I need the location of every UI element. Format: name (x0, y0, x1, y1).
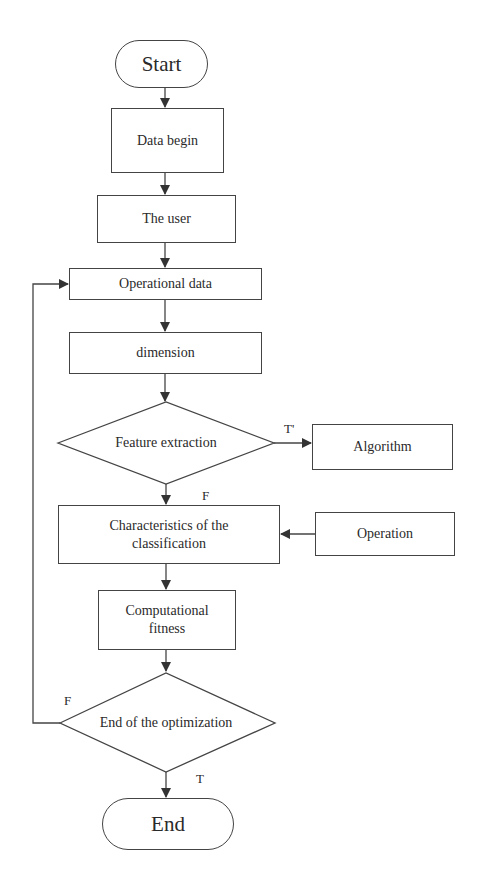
computational-fitness-box: Computational fitness (98, 590, 236, 650)
end-optimization-decision: End of the optimization (80, 710, 252, 736)
opt-false-label: F (64, 693, 71, 709)
operation-label: Operation (357, 525, 413, 543)
feature-true-label: T' (284, 421, 294, 437)
data-begin-box: Data begin (111, 108, 224, 173)
end-terminal: End (102, 798, 234, 850)
feature-false-label: F (202, 488, 209, 504)
characteristics-label: Characteristics of the classification (89, 517, 249, 553)
data-begin-label: Data begin (137, 132, 198, 150)
start-terminal: Start (115, 40, 208, 88)
start-label: Start (142, 55, 182, 73)
the-user-label: The user (142, 210, 191, 228)
algorithm-label: Algorithm (353, 438, 411, 456)
algorithm-box: Algorithm (312, 424, 453, 470)
feature-extraction-decision: Feature extraction (88, 430, 244, 456)
characteristics-box: Characteristics of the classification (58, 505, 280, 564)
end-label: End (151, 815, 185, 833)
end-optimization-label: End of the optimization (100, 714, 233, 732)
the-user-box: The user (97, 195, 236, 243)
feature-extraction-label: Feature extraction (115, 434, 216, 452)
opt-true-label: T (196, 771, 204, 787)
dimension-box: dimension (69, 332, 262, 374)
operation-box: Operation (315, 512, 455, 556)
dimension-label: dimension (136, 344, 194, 362)
operational-data-label: Operational data (119, 275, 212, 293)
operational-data-box: Operational data (69, 268, 262, 300)
computational-fitness-label: Computational fitness (117, 602, 217, 638)
